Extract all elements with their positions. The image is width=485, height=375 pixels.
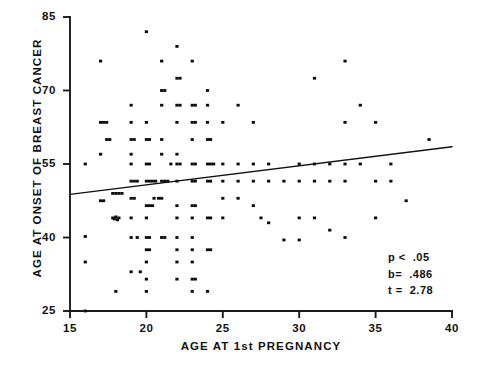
data-point [194,180,197,183]
data-point [145,180,148,183]
data-point [84,310,87,313]
data-point [175,121,178,124]
data-point [108,138,111,141]
data-point [130,163,133,166]
data-point [163,89,166,92]
data-point [113,217,116,220]
data-point [427,138,430,141]
data-point [206,248,209,251]
data-point [160,236,163,239]
data-point [313,180,316,183]
data-point [194,204,197,207]
data-point [148,163,151,166]
data-point [175,104,178,107]
plot-canvas [0,0,485,375]
data-point [105,138,108,141]
data-point [136,180,139,183]
data-point [114,192,117,195]
data-point [298,217,301,220]
data-point [206,138,209,141]
data-point [130,153,133,156]
data-point [160,89,163,92]
data-point [84,261,87,264]
data-point [267,221,270,224]
x-tick-label-25: 25 [203,322,243,334]
data-point [209,163,212,166]
data-point [191,204,194,207]
y-tick-label-85: 85 [22,10,56,22]
data-point [206,163,209,166]
data-point [343,163,346,166]
data-point [148,204,151,207]
data-point [145,248,148,251]
data-point [206,104,209,107]
data-point [359,163,362,166]
data-point [130,197,133,200]
data-point [99,121,102,124]
data-point [389,180,392,183]
y-tick-label-25: 25 [22,304,56,316]
data-point [175,217,178,220]
data-point [259,217,262,220]
data-point [191,217,194,220]
data-point [136,236,139,239]
x-tick-label-30: 30 [279,322,319,334]
data-point [145,217,148,220]
data-point [221,121,224,124]
data-point [194,121,197,124]
data-point [252,180,255,183]
data-point [145,278,148,281]
data-point [209,180,212,183]
data-point [313,77,316,80]
data-point [374,180,377,183]
data-point [252,121,255,124]
data-point [152,197,155,200]
data-point [148,138,151,141]
x-tick-label-35: 35 [356,322,396,334]
regression-line [70,147,452,195]
data-point [163,236,166,239]
data-point [191,180,194,183]
data-point [102,121,105,124]
data-point [374,121,377,124]
data-point [282,239,285,242]
data-point [298,180,301,183]
data-point [120,192,123,195]
data-point [221,180,224,183]
data-point [236,104,239,107]
data-point [206,121,209,124]
data-point [151,204,154,207]
data-point [236,163,239,166]
data-point [130,104,133,107]
data-point [130,121,133,124]
scatter-plot-figure: 2540557085 152025303540 AGE AT ONSET OF … [0,0,485,375]
data-point [236,180,239,183]
data-point [191,138,194,141]
data-point [145,163,148,166]
data-point [191,278,194,281]
data-point [252,204,255,207]
data-point [145,290,148,293]
data-point [343,180,346,183]
data-point [191,290,194,293]
data-point [343,121,346,124]
data-point [191,248,194,251]
data-point [84,235,87,238]
x-axis-title: AGE AT 1st PREGNANCY [70,340,452,352]
data-point [212,163,215,166]
data-point [102,199,105,202]
data-point [160,104,163,107]
data-point [160,60,163,63]
data-point [148,236,151,239]
data-point [175,77,178,80]
data-point [105,121,108,124]
data-point [175,45,178,48]
data-point [145,236,148,239]
data-point [194,104,197,107]
data-point [157,197,160,200]
regression-trendline [70,147,452,195]
data-point [117,192,120,195]
x-tick-label-40: 40 [432,322,472,334]
data-point [178,104,181,107]
x-tick-label-15: 15 [50,322,90,334]
